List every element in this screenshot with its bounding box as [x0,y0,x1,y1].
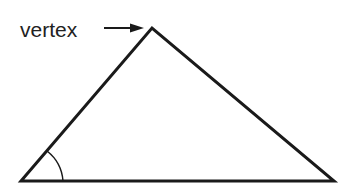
arrow [104,24,144,33]
vertex-label: vertex [20,18,78,41]
arrow-head-icon [130,24,144,33]
triangle [21,28,334,181]
angle-arc [47,151,63,181]
triangle-diagram: vertex [0,0,353,195]
